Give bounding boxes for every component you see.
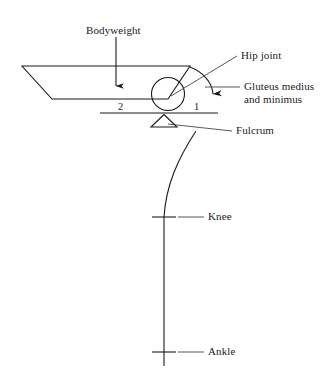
label-ankle: Ankle xyxy=(208,345,235,358)
label-effort-arm-1: 1 xyxy=(194,100,199,113)
label-bodyweight: Bodyweight xyxy=(86,24,141,37)
gluteus-force-arrow xyxy=(190,67,213,94)
pelvis-outline xyxy=(22,66,190,99)
label-gluteus-line1: Gluteus medius xyxy=(244,80,314,92)
fulcrum-triangle xyxy=(151,115,177,128)
femur-curve xyxy=(164,131,196,217)
label-knee: Knee xyxy=(208,210,232,223)
label-gluteus: Gluteus medius and minimus xyxy=(244,80,329,106)
leader-line-hip-joint xyxy=(171,56,237,96)
diagram-root: Bodyweight Hip joint Gluteus medius and … xyxy=(0,0,329,377)
femoral-head-circle xyxy=(152,78,185,111)
label-hip-joint: Hip joint xyxy=(241,49,281,62)
label-load-arm-2: 2 xyxy=(118,100,123,113)
label-gluteus-line2: and minimus xyxy=(244,93,302,105)
label-fulcrum: Fulcrum xyxy=(236,124,274,137)
